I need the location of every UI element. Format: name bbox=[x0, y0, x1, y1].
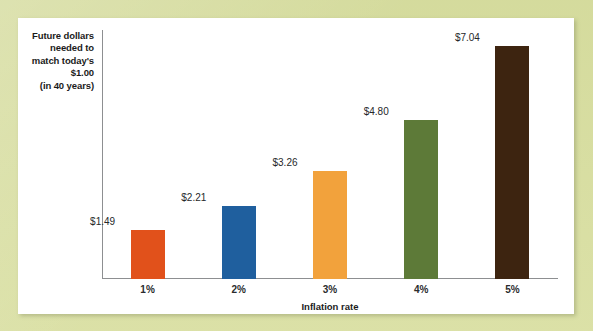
bar-value-label: $4.80 bbox=[331, 106, 421, 117]
x-axis-title: Inflation rate bbox=[102, 301, 558, 312]
bar-value-label: $2.21 bbox=[149, 192, 239, 203]
bar-5pct[interactable] bbox=[495, 46, 529, 279]
category-label-4pct: 4% bbox=[376, 284, 466, 295]
y-axis-caption-line-1: Future dollars bbox=[18, 30, 94, 42]
bar-group: $4.80 bbox=[376, 18, 466, 279]
y-axis-caption-line-2: needed to bbox=[18, 42, 94, 54]
bar-2pct[interactable] bbox=[222, 206, 256, 279]
category-label-3pct: 3% bbox=[285, 284, 375, 295]
bar-value-label: $3.26 bbox=[240, 157, 330, 168]
bar-group: $3.26 bbox=[285, 18, 375, 279]
bar-value-label: $7.04 bbox=[422, 32, 512, 43]
bar-group: $2.21 bbox=[194, 18, 284, 279]
bar-1pct[interactable] bbox=[131, 230, 165, 279]
category-label-5pct: 5% bbox=[467, 284, 557, 295]
bar-4pct[interactable] bbox=[404, 120, 438, 279]
bar-value-label: $1.49 bbox=[58, 216, 148, 227]
plot-area: Future dollars needed to match today's $… bbox=[18, 18, 574, 314]
category-label-layer: 1%2%3%4%5% bbox=[102, 284, 558, 300]
bar-3pct[interactable] bbox=[313, 171, 347, 279]
y-axis-caption-line-5: (in 40 years) bbox=[18, 80, 94, 92]
figure-root: Future dollars needed to match today's $… bbox=[0, 0, 593, 331]
bars-layer: $1.49$2.21$3.26$4.80$7.04 bbox=[102, 18, 558, 279]
bar-group: $7.04 bbox=[467, 18, 557, 279]
y-axis-caption-line-3: match today's bbox=[18, 55, 94, 67]
category-label-2pct: 2% bbox=[194, 284, 284, 295]
chart-panel: Future dollars needed to match today's $… bbox=[18, 18, 574, 314]
category-label-1pct: 1% bbox=[103, 284, 193, 295]
y-axis-caption: Future dollars needed to match today's $… bbox=[18, 30, 94, 92]
bar-group: $1.49 bbox=[103, 18, 193, 279]
y-axis-caption-line-4: $1.00 bbox=[18, 67, 94, 79]
